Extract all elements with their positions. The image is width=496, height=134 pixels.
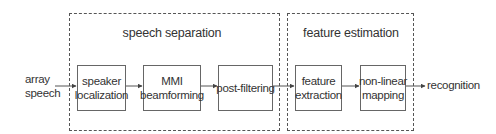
edges-layer [0,0,496,134]
